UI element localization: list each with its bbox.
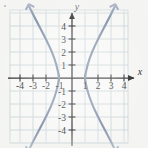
y-tick-label-2: 2 — [61, 48, 66, 58]
y-axis-label: y — [74, 1, 80, 12]
x-tick-label-neg4: -4 — [16, 81, 24, 91]
y-tick-label-neg4: -4 — [58, 126, 66, 136]
y-tick-label-neg2: -2 — [58, 100, 66, 110]
x-tick-label-neg3: -3 — [29, 81, 37, 91]
x-tick-label-4: 4 — [122, 81, 127, 91]
y-tick-label-3: 3 — [61, 35, 66, 45]
coordinate-plane: -4 -3 -2 -1 1 2 3 4 4 3 2 1 -1 -2 -3 -4 … — [0, 0, 148, 148]
graph-figure: -4 -3 -2 -1 1 2 3 4 4 3 2 1 -1 -2 -3 -4 … — [0, 0, 148, 148]
grid-panel — [10, 10, 128, 143]
y-tick-label-1: 1 — [61, 61, 66, 71]
x-tick-label-3: 3 — [109, 81, 114, 91]
y-tick-label-4: 4 — [61, 22, 66, 32]
x-axis-label: x — [137, 66, 143, 77]
x-tick-label-neg2: -2 — [42, 81, 50, 91]
y-tick-label-neg1: -1 — [58, 87, 66, 97]
x-tick-label-2: 2 — [96, 81, 101, 91]
x-tick-label-1: 1 — [83, 81, 88, 91]
y-tick-label-neg3: -3 — [58, 113, 66, 123]
